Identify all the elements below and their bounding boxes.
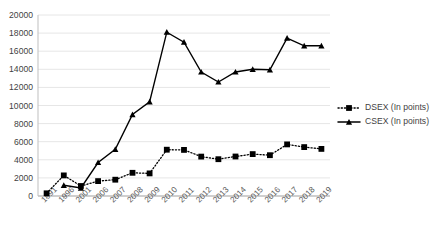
y-axis-tick-label: 16000 <box>9 46 33 56</box>
chart-legend: DSEX (In points)CSEX (In points) <box>338 102 429 126</box>
x-axis-tick-label: 2010 <box>160 185 180 205</box>
y-axis-tick-label: 4000 <box>14 155 33 165</box>
x-axis-tick-label: 2016 <box>263 185 283 205</box>
x-axis-tick-label: 2019 <box>314 185 334 205</box>
legend-marker-square <box>346 105 352 111</box>
series-line <box>64 32 322 188</box>
data-point-marker <box>147 171 153 177</box>
data-point-marker <box>319 146 325 152</box>
y-axis-tick-label: 2000 <box>14 173 33 183</box>
x-axis-tick-label: 2015 <box>246 185 266 205</box>
data-point-marker <box>284 35 290 41</box>
y-axis-tick-label: 14000 <box>9 64 33 74</box>
x-axis-tick-label: 2012 <box>194 185 214 205</box>
y-axis-tick-label: 18000 <box>9 28 33 38</box>
data-point-marker <box>181 147 187 153</box>
data-point-marker <box>198 154 204 160</box>
y-axis-tick-label: 6000 <box>14 137 33 147</box>
data-point-marker <box>61 173 67 179</box>
data-point-marker <box>130 170 136 176</box>
data-point-marker <box>164 29 170 35</box>
data-point-marker <box>267 152 273 158</box>
data-point-marker <box>250 151 256 157</box>
x-axis-tick-label: 2009 <box>143 185 163 205</box>
x-axis-tick-label: 2013 <box>211 185 231 205</box>
data-point-marker <box>215 79 221 85</box>
x-axis-tick-label: 2008 <box>126 185 146 205</box>
legend-label: DSEX (In points) <box>365 102 429 112</box>
data-point-marker <box>95 178 101 184</box>
gridlines-group: 0200040006000800010000120001400016000180… <box>9 10 330 201</box>
data-point-marker <box>233 154 239 160</box>
y-axis-tick-label: 8000 <box>14 119 33 129</box>
x-axis-tick-label: 2014 <box>229 185 249 205</box>
y-axis-tick-label: 0 <box>28 191 33 201</box>
legend-label: CSEX (In points) <box>365 116 429 126</box>
legend-item: CSEX (In points) <box>338 116 429 126</box>
data-point-marker <box>164 147 170 153</box>
data-point-marker <box>44 190 50 196</box>
data-point-marker <box>216 156 222 162</box>
data-point-marker <box>284 142 290 148</box>
legend-item: DSEX (In points) <box>338 102 429 112</box>
y-axis-tick-label: 10000 <box>9 101 33 111</box>
series-csex <box>61 29 325 191</box>
y-axis-tick-label: 12000 <box>9 82 33 92</box>
x-axis-tick-label: 2007 <box>108 185 128 205</box>
data-point-marker <box>112 146 118 152</box>
chart-canvas: 0200040006000800010000120001400016000180… <box>0 0 437 236</box>
x-axis-tick-label: 2018 <box>297 185 317 205</box>
line-chart: 0200040006000800010000120001400016000180… <box>0 0 437 236</box>
data-point-marker <box>181 39 187 45</box>
x-axis-tick-label: 2006 <box>91 185 111 205</box>
x-axis-tick-label: 2011 <box>177 185 196 204</box>
data-point-marker <box>112 177 118 183</box>
x-axis-tick-label: 2017 <box>280 185 300 205</box>
y-axis-tick-label: 20000 <box>9 10 33 20</box>
data-point-marker <box>301 144 307 150</box>
data-point-marker <box>147 99 153 105</box>
